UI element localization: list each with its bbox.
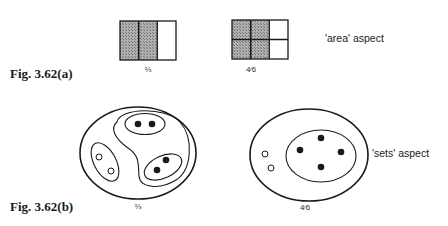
hollow-dots-four-sixths: [262, 151, 274, 171]
area-diagram-four-sixths: [232, 20, 288, 59]
hollow-dots-two-thirds: [96, 154, 114, 174]
filled-dots-four-sixths: [297, 135, 345, 171]
fraction-label-four-sixths-area: 4⁄6: [246, 65, 257, 74]
figure-a-label: Fig. 3.62(a): [10, 66, 72, 81]
area-aspect-label: 'area' aspect: [325, 32, 384, 44]
filled-dots-two-thirds: [135, 121, 170, 174]
sets-aspect-label: 'sets' aspect: [372, 147, 429, 159]
fraction-diagrams-canvas: ⅔ 4⁄6 'area' aspect Fig. 3.62(a) ⅔: [0, 0, 448, 226]
area-diagram-two-thirds: [120, 21, 176, 60]
fraction-label-four-sixths-sets: 4⁄6: [300, 203, 311, 212]
fraction-label-two-thirds-area: ⅔: [145, 65, 152, 74]
figure-b-label: Fig. 3.62(b): [10, 199, 73, 214]
fraction-label-two-thirds-sets: ⅔: [135, 202, 142, 211]
